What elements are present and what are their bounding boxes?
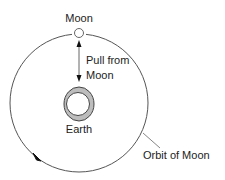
earth-label: Earth [66, 123, 92, 135]
pull-label-line1: Pull from [86, 54, 129, 66]
pull-label-line2: Moon [86, 69, 114, 81]
moon-label: Moon [65, 12, 93, 24]
orbit-direction-arrow-icon [33, 153, 41, 161]
moon-icon [75, 29, 84, 38]
earth-icon [67, 93, 90, 116]
orbit-label-leader [143, 133, 160, 148]
arrowhead-down-icon [77, 75, 82, 82]
arrowhead-up-icon [77, 40, 82, 47]
moon-orbit-diagram: Moon Pull from Moon Earth Orbit of Moon [0, 0, 225, 180]
orbit-label: Orbit of Moon [143, 149, 210, 161]
